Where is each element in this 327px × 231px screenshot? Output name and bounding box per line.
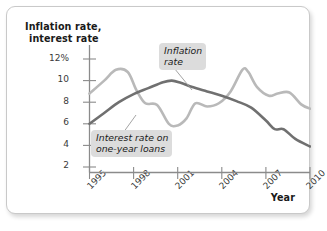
callout-inflation-line2: rate bbox=[164, 56, 202, 67]
callout-interest-rate: Interest rate on one-year loans bbox=[91, 130, 172, 157]
callout-interest-line1: Interest rate on bbox=[96, 132, 168, 143]
callout-inflation-line1: Inflation bbox=[164, 45, 202, 56]
callout-interest-line2: one-year loans bbox=[96, 143, 168, 154]
series-line-interest-rate bbox=[90, 68, 311, 126]
plot-area bbox=[7, 7, 311, 215]
callout-inflation-rate: Inflation rate bbox=[159, 43, 206, 70]
chart-frame: Inflation rate, interest rate Year 12% 1… bbox=[6, 6, 310, 214]
